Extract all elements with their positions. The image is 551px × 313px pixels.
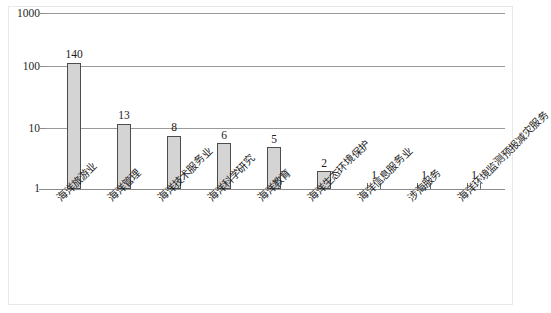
y-tick-mark-100: [39, 66, 46, 67]
bar-value-label-3: 6: [209, 129, 239, 141]
y-tick-label-1: 1: [0, 183, 40, 194]
bar-value-label-1: 13: [109, 109, 139, 121]
plot-area: 140 13 8 6 5 2 1 1 1: [46, 13, 505, 189]
y-tick-label-1000: 1000: [0, 8, 40, 19]
y-tick-mark-1000: [39, 13, 46, 14]
gridline-10: [46, 128, 505, 129]
y-axis-labels: 1000 100 10 1: [0, 13, 40, 189]
y-tick-mark-1: [39, 189, 46, 190]
bar-value-label-4: 5: [259, 133, 289, 145]
y-tick-label-100: 100: [0, 61, 40, 72]
y-tick-label-10: 10: [0, 123, 40, 134]
gridline-100: [46, 66, 505, 67]
bar-haiyang-lvyouye[interactable]: [67, 63, 81, 189]
y-tick-mark-10: [39, 128, 46, 129]
gridline-1000: [46, 13, 505, 14]
bar-value-label-2: 8: [159, 121, 189, 133]
bar-value-label-0: 140: [59, 48, 89, 60]
